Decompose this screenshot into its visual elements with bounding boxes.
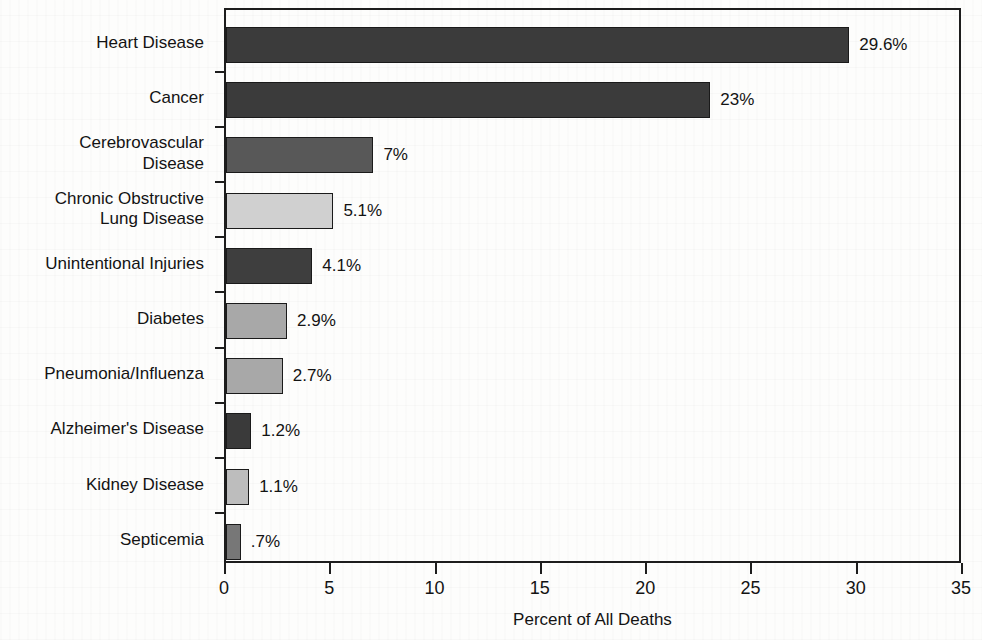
category-label-line: Alzheimer's Disease: [0, 419, 204, 439]
x-axis-tick-label: 5: [324, 578, 334, 599]
category-label-line: Diabetes: [0, 309, 204, 329]
category-label-line: Cancer: [0, 88, 204, 108]
y-axis-tick: [215, 512, 224, 514]
x-axis-tick: [856, 563, 858, 574]
category-label: Unintentional Injuries: [0, 254, 204, 274]
bar-value-label: 2.7%: [293, 366, 332, 386]
category-label: Heart Disease: [0, 33, 204, 53]
bar-row: 2.9%: [226, 303, 963, 339]
bar-row: 1.1%: [226, 469, 963, 505]
bar: [226, 358, 283, 394]
bar-value-label: 2.9%: [297, 311, 336, 331]
category-label-line: Disease: [0, 154, 204, 174]
x-axis-tick-label: 0: [219, 578, 229, 599]
bar-row: 2.7%: [226, 358, 963, 394]
category-label: Pneumonia/Influenza: [0, 364, 204, 384]
y-axis-tick: [215, 457, 224, 459]
category-label: Kidney Disease: [0, 475, 204, 495]
bar: [226, 193, 333, 229]
category-axis-labels: Heart DiseaseCancerCerebrovascularDiseas…: [0, 8, 214, 563]
category-label: Diabetes: [0, 309, 204, 329]
category-label-line: Cerebrovascular: [0, 133, 204, 153]
x-axis-tick-label: 35: [951, 578, 971, 599]
bar: [226, 413, 251, 449]
category-label: Alzheimer's Disease: [0, 419, 204, 439]
bar-row: 7%: [226, 137, 963, 173]
y-axis-tick: [215, 291, 224, 293]
bar: [226, 27, 849, 63]
bar-value-label: 1.2%: [261, 421, 300, 441]
category-label: Cancer: [0, 88, 204, 108]
x-axis-tick-label: 10: [425, 578, 445, 599]
y-axis-tick: [215, 181, 224, 183]
y-axis-tick: [215, 236, 224, 238]
bar-value-label: 4.1%: [322, 256, 361, 276]
chart-page: Heart DiseaseCancerCerebrovascularDiseas…: [0, 0, 982, 640]
plot-area: 29.6%23%7%5.1%4.1%2.9%2.7%1.2%1.1%.7%: [224, 8, 961, 563]
y-axis-tick: [215, 402, 224, 404]
bar-value-label: 29.6%: [859, 35, 907, 55]
category-label-line: Heart Disease: [0, 33, 204, 53]
bar: [226, 303, 287, 339]
bar-row: 1.2%: [226, 413, 963, 449]
x-axis-tick-label: 20: [635, 578, 655, 599]
category-label-line: Lung Disease: [0, 209, 204, 229]
bar-value-label: 7%: [383, 145, 408, 165]
x-axis-tick: [645, 563, 647, 574]
x-axis-tick: [435, 563, 437, 574]
category-label-line: Septicemia: [0, 530, 204, 550]
category-label-line: Unintentional Injuries: [0, 254, 204, 274]
category-label: Septicemia: [0, 530, 204, 550]
x-axis-tick: [750, 563, 752, 574]
y-axis-tick: [215, 71, 224, 73]
category-label-line: Kidney Disease: [0, 475, 204, 495]
x-axis-title: Percent of All Deaths: [224, 610, 961, 630]
x-axis-tick-label: 25: [740, 578, 760, 599]
category-label: CerebrovascularDisease: [0, 133, 204, 174]
bar-row: 5.1%: [226, 193, 963, 229]
bar: [226, 248, 312, 284]
bar-value-label: 1.1%: [259, 477, 298, 497]
bar-row: 29.6%: [226, 27, 963, 63]
bar: [226, 469, 249, 505]
x-axis-tick-label: 15: [530, 578, 550, 599]
bar-row: 23%: [226, 82, 963, 118]
bar-value-label: .7%: [251, 532, 280, 552]
x-axis-tick-label: 30: [846, 578, 866, 599]
x-axis-tick: [224, 563, 226, 574]
category-label: Chronic ObstructiveLung Disease: [0, 189, 204, 230]
bar-value-label: 23%: [720, 90, 754, 110]
x-axis-tick: [961, 563, 963, 574]
bar-row: 4.1%: [226, 248, 963, 284]
y-axis-tick: [215, 126, 224, 128]
bar: [226, 137, 373, 173]
bar-row: .7%: [226, 524, 963, 560]
x-axis-tick: [540, 563, 542, 574]
bars-container: 29.6%23%7%5.1%4.1%2.9%2.7%1.2%1.1%.7%: [226, 10, 959, 561]
category-label-line: Pneumonia/Influenza: [0, 364, 204, 384]
category-label-line: Chronic Obstructive: [0, 189, 204, 209]
bar-value-label: 5.1%: [343, 201, 382, 221]
x-axis-tick: [329, 563, 331, 574]
bar: [226, 524, 241, 560]
y-axis-tick: [215, 347, 224, 349]
bar: [226, 82, 710, 118]
